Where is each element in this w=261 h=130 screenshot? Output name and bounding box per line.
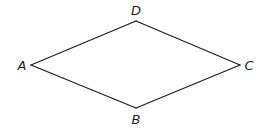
vertex-label-d: D (131, 3, 141, 18)
edge-d-c (136, 21, 240, 65)
edge-b-a (31, 65, 136, 108)
edge-c-b (136, 65, 240, 108)
vertex-label-a: A (17, 58, 27, 73)
rhombus-edges (31, 21, 240, 108)
vertex-label-b: B (132, 112, 141, 127)
edge-a-d (31, 21, 136, 65)
vertex-label-c: C (244, 58, 254, 73)
rhombus-diagram: A D C B (0, 0, 261, 130)
